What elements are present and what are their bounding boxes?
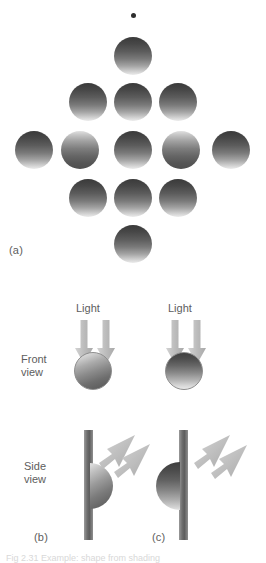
- panel-b-light-label: Light: [76, 302, 100, 314]
- panel-c-front-view-sphere: [165, 352, 203, 390]
- fixation-dot: [131, 13, 136, 18]
- front-view-label-line2: view: [21, 366, 47, 379]
- sphere-row4-center: [114, 179, 152, 217]
- front-view-label-line1: Front: [21, 353, 47, 366]
- caption-partial: Fig 2.31 Example: shape from shading: [6, 553, 260, 563]
- sphere-row4-left: [69, 179, 107, 217]
- sphere-row2-right: [159, 83, 197, 121]
- panel-c-side-arrow-outer: [209, 443, 249, 483]
- side-view-label-line2: view: [24, 473, 46, 486]
- sphere-row3-far-right: [212, 131, 250, 169]
- sphere-row2-left: [69, 83, 107, 121]
- panel-b-label: (b): [34, 531, 48, 543]
- sphere-row3-center: [114, 131, 152, 169]
- panel-b-front-view-sphere: [74, 352, 112, 390]
- panel-c-surface-wall: [179, 430, 188, 540]
- figure-shape-from-shading: (a) Front view Side view Light: [0, 0, 266, 563]
- panel-c-side-view-dimple: [156, 462, 180, 510]
- front-view-label: Front view: [21, 353, 47, 379]
- sphere-row3-right: [162, 131, 200, 169]
- sphere-row2-center: [114, 83, 152, 121]
- sphere-row3-left: [61, 131, 99, 169]
- sphere-top: [114, 37, 152, 75]
- side-view-label-line1: Side: [24, 460, 46, 473]
- panel-c-light-label: Light: [168, 302, 192, 314]
- panel-c-label: (c): [152, 531, 165, 543]
- panel-b-side-arrow-outer: [112, 442, 152, 482]
- panel-a-sphere-array: (a): [0, 0, 266, 290]
- panel-bc-diagrams: Front view Side view Light: [0, 290, 266, 563]
- sphere-row3-far-left: [15, 131, 53, 169]
- side-view-label: Side view: [24, 460, 46, 486]
- sphere-bottom: [114, 225, 152, 263]
- sphere-row4-right: [159, 179, 197, 217]
- panel-a-label: (a): [9, 244, 23, 256]
